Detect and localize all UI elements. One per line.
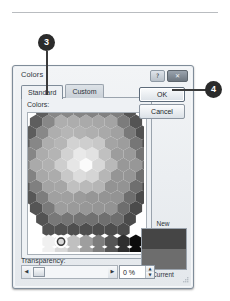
callout-4-leader-line [172,89,207,91]
standard-tab-panel: Colors: [21,97,152,259]
tab-custom[interactable]: Custom [65,84,103,98]
resize-grip-icon[interactable] [182,277,189,284]
titlebar-button-group: ? ✕ [150,70,188,82]
transparency-spinner[interactable]: 0 % ▲ ▼ [119,265,155,279]
help-glyph: ? [151,71,164,81]
cancel-button[interactable]: Cancel [139,104,185,119]
color-honeycomb-picker[interactable] [27,112,147,255]
slider-track[interactable] [31,266,108,278]
close-glyph: ✕ [168,71,187,81]
spinner-buttons: ▲ ▼ [145,266,154,278]
transparency-value[interactable]: 0 % [120,269,145,276]
callout-marker-4: 4 [205,81,222,98]
spinner-down-icon[interactable]: ▼ [146,272,154,278]
transparency-label: Transparency: [21,257,65,264]
transparency-slider[interactable]: ◀ ▶ [21,265,118,279]
tab-standard[interactable]: Standard [21,85,63,99]
preview-swatches [141,228,187,270]
honeycomb-svg [28,113,144,252]
new-color-label: New [141,219,185,228]
dialog-inner-frame: Colors ? ✕ Standard Custom [14,67,192,287]
help-icon[interactable]: ? [150,70,165,82]
tab-strip: Standard Custom [21,85,104,98]
top-divider-rule [12,12,218,13]
colors-label: Colors: [27,101,49,108]
tab-standard-label: Standard [28,89,56,96]
callout-marker-3: 3 [38,34,55,51]
slider-right-arrow-icon[interactable]: ▶ [108,266,117,278]
slider-left-arrow-icon[interactable]: ◀ [22,266,31,278]
close-icon[interactable]: ✕ [167,70,188,82]
callout-3-leader-line [46,51,48,95]
new-color-swatch [142,229,186,249]
tab-custom-label: Custom [72,88,96,95]
dialog-titlebar[interactable]: Colors ? ✕ [15,68,191,83]
slider-thumb[interactable] [33,267,45,277]
colors-dialog: Colors ? ✕ Standard Custom [12,65,194,289]
dialog-title: Colors [21,70,43,79]
screenshot-root: 3 4 Colors ? ✕ Standard [0,0,230,301]
